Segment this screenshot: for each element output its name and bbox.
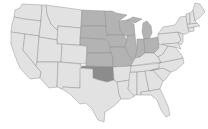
us-map-svg bbox=[0, 0, 208, 129]
state-wy[interactable] bbox=[57, 26, 81, 45]
state-co[interactable] bbox=[61, 44, 87, 64]
state-fl[interactable] bbox=[141, 89, 170, 117]
state-nm[interactable] bbox=[57, 62, 81, 89]
us-map bbox=[0, 0, 208, 129]
state-nd[interactable] bbox=[81, 10, 106, 26]
state-sd[interactable] bbox=[80, 26, 107, 40]
state-me[interactable] bbox=[193, 3, 205, 21]
state-ks[interactable] bbox=[86, 53, 113, 67]
state-ia[interactable] bbox=[107, 35, 127, 47]
state-ny[interactable] bbox=[158, 16, 189, 34]
